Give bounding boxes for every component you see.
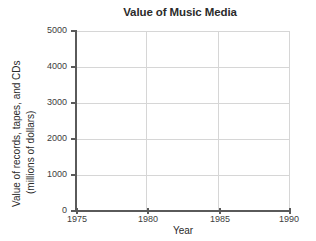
y-axis-tick-label: 3000	[47, 98, 67, 107]
y-axis-title-line-2: (millions of dollars)	[26, 111, 36, 194]
chart-figure: Value of Music Media Value of records, t…	[0, 0, 316, 241]
plot-border-right	[289, 31, 290, 211]
y-axis-tick-label: 4000	[47, 62, 67, 71]
y-axis-line	[75, 30, 77, 212]
gridline-vertical	[146, 31, 147, 211]
gridline-horizontal	[76, 139, 290, 140]
gridline-horizontal	[76, 175, 290, 176]
x-axis-tick-label: 1990	[269, 215, 309, 224]
y-axis-tick-label: 1000	[47, 170, 67, 179]
y-axis-title-line-1: Value of records, tapes, and CDs	[12, 60, 22, 207]
y-axis-tick	[71, 66, 76, 68]
x-axis-tick-label: 1980	[128, 215, 168, 224]
y-axis-tick-label: 2000	[47, 134, 67, 143]
y-axis-tick	[71, 30, 76, 32]
x-axis-line	[75, 210, 291, 212]
chart-title: Value of Music Media	[60, 6, 300, 18]
gridline-horizontal	[76, 67, 290, 68]
y-axis-tick	[71, 174, 76, 176]
y-axis-tick-label: 5000	[47, 26, 67, 35]
plot-area	[76, 31, 290, 211]
y-axis-tick	[71, 138, 76, 140]
y-axis-tick	[71, 102, 76, 104]
gridline-vertical	[218, 31, 219, 211]
x-axis-title: Year	[76, 225, 290, 236]
x-axis-tick-label: 1975	[57, 215, 97, 224]
x-axis-tick-label: 1985	[200, 215, 240, 224]
gridline-horizontal	[76, 31, 290, 32]
gridline-horizontal	[76, 103, 290, 104]
